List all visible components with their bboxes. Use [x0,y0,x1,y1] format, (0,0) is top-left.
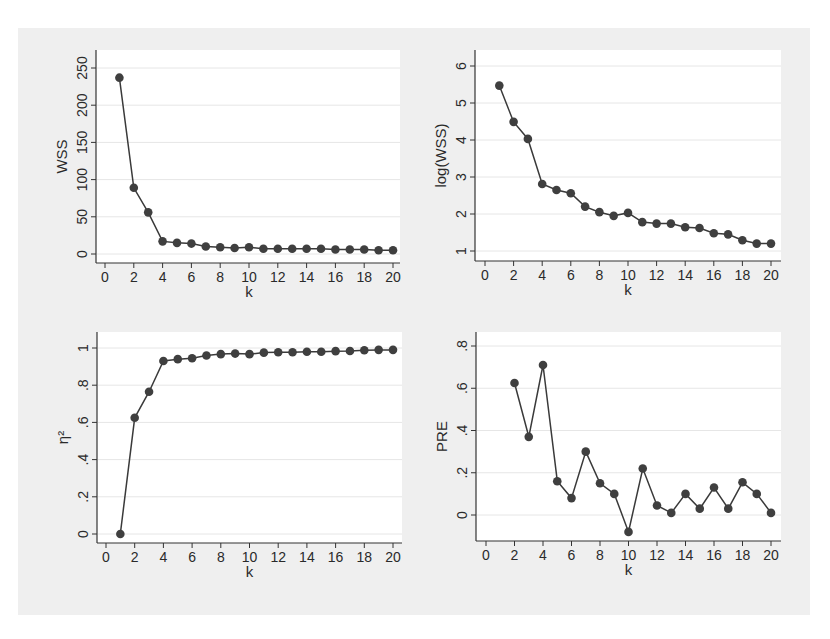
data-point [158,237,167,246]
x-tick-label: 12 [270,549,286,565]
data-point [317,347,326,356]
x-tick-label: 8 [216,269,224,285]
x-tick-label: 2 [131,549,139,565]
x-tick-label: 18 [735,547,751,563]
x-axis-title: k [245,283,253,300]
data-point [524,135,533,144]
y-tick-label: 0 [75,530,91,538]
data-point [752,239,761,248]
data-point [389,246,398,255]
data-point [260,348,269,357]
data-point [202,242,211,251]
data-point [596,479,605,488]
y-tick-label: .2 [75,491,91,503]
data-point [581,202,590,211]
panel-bottom-left: 0.2.4.6.8102468101214161820kη² [54,332,402,580]
y-tick-label: .8 [75,379,91,391]
x-tick-label: 0 [102,549,110,565]
data-point [159,357,168,366]
data-point [360,245,369,254]
data-point [667,509,676,518]
data-point [274,348,283,357]
x-tick-label: 6 [188,549,196,565]
data-point [552,186,561,195]
data-point [653,501,662,510]
y-tick-label: .4 [75,454,91,466]
x-tick-label: 4 [538,267,546,283]
x-tick-label: 18 [735,267,751,283]
x-tick-label: 20 [763,547,779,563]
data-point [317,244,326,253]
data-point [360,346,369,355]
x-tick-label: 18 [357,549,373,565]
y-axis-title: WSS [53,139,70,173]
y-tick-label: .6 [75,416,91,428]
y-tick-label: 3 [453,173,469,181]
y-tick-label: .8 [454,340,470,352]
data-point [231,349,240,358]
data-point [567,494,576,503]
data-point [638,218,647,227]
x-tick-label: 20 [385,549,401,565]
data-point [145,387,154,396]
data-point [187,239,196,248]
data-point [130,183,139,192]
x-tick-label: 0 [482,547,490,563]
y-tick-label: .4 [454,424,470,436]
x-tick-label: 0 [101,269,109,285]
data-point [495,81,504,90]
panel-bottom-right: 0.2.4.6.802468101214161820kPRE [433,332,781,578]
x-tick-label: 2 [511,547,519,563]
x-tick-label: 12 [270,269,286,285]
y-axis-title: log(WSS) [432,123,449,187]
x-tick-label: 0 [481,267,489,283]
x-axis-title: k [624,281,632,298]
y-tick-label: 6 [453,62,469,70]
plot-area [96,50,400,263]
data-point [217,350,226,359]
y-tick-label: 150 [74,131,90,155]
data-point [374,246,383,255]
chart-canvas: 05010015020025002468101214161820kWSS1234… [0,0,830,639]
x-tick-label: 8 [217,549,225,565]
x-tick-label: 8 [596,547,604,563]
y-axis-title: PRE [433,421,450,452]
data-point [724,504,733,513]
x-tick-label: 16 [328,269,344,285]
y-tick-label: 50 [74,209,90,225]
data-point [710,483,719,492]
data-point [144,208,153,217]
data-point [510,379,519,388]
panel-top-right: 12345602468101214161820klog(WSS) [432,50,781,298]
y-tick-label: 1 [75,344,91,352]
y-tick-label: 4 [453,136,469,144]
data-point [230,244,239,253]
data-point [509,118,518,127]
data-point [216,243,225,252]
data-point [389,346,398,355]
x-tick-label: 6 [188,269,196,285]
y-axis-title: η² [54,431,71,444]
x-tick-label: 14 [299,269,315,285]
data-point [539,361,548,370]
data-point [130,413,139,422]
y-tick-label: 0 [454,511,470,519]
panel-top-left: 05010015020025002468101214161820kWSS [53,50,401,300]
data-point [331,347,340,356]
data-point [667,219,676,228]
data-point [245,243,254,252]
data-point [624,209,633,218]
x-tick-label: 2 [130,269,138,285]
data-point [638,464,647,473]
data-point [738,236,747,245]
data-point [173,239,182,248]
data-point [346,347,355,356]
data-point [710,229,719,238]
x-tick-label: 4 [160,549,168,565]
data-point [303,347,312,356]
data-point [331,245,340,254]
y-tick-label: .2 [454,467,470,479]
data-point [288,244,297,253]
data-point [595,208,604,217]
plot-area [476,332,781,541]
